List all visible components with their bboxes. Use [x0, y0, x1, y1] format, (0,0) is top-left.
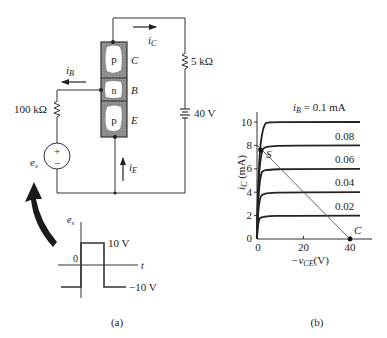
y-tick-10: 10 — [241, 116, 253, 128]
point-c-label: C — [354, 224, 362, 236]
collector-current-label: iC — [148, 34, 157, 48]
series-label-0.1: iB = 0.1 mA — [293, 101, 346, 115]
y-tick-6: 6 — [247, 162, 253, 174]
x-tick-40: 40 — [345, 241, 357, 253]
y-tick-2: 2 — [247, 209, 253, 221]
source-waveform — [58, 222, 138, 298]
base-resistor — [54, 101, 60, 117]
waveform-high-label: 10 V — [108, 237, 130, 249]
figure: 5 kΩ 40 V 100 kΩ + − es p n p C B E iC i… — [0, 0, 387, 338]
voltage-source: + − — [44, 143, 70, 169]
characteristic-chart: 10 8 6 4 2 0 0 20 40 S C iB = 0.1 mA 0.0… — [235, 101, 372, 268]
waveform-origin-label: 0 — [73, 253, 78, 264]
waveform-x-label: t — [141, 260, 144, 271]
collector-resistor-label: 5 kΩ — [191, 55, 213, 67]
curve-ib-0.02 — [257, 216, 360, 239]
point-s-marker — [258, 148, 263, 153]
caption-a: (a) — [111, 316, 124, 329]
x-tick-20: 20 — [298, 241, 310, 253]
collector-terminal-label: C — [131, 54, 139, 66]
collector-resistor — [182, 53, 188, 69]
base-current-label: iB — [66, 64, 74, 78]
base-terminal-label: B — [131, 84, 138, 96]
waveform-low-label: −10 V — [129, 281, 157, 293]
emitter-current-label: iE — [129, 161, 137, 175]
source-minus: − — [54, 157, 60, 169]
emitter-region-label: p — [111, 114, 117, 126]
chart-x-label: −vCE(V) — [291, 254, 329, 268]
x-tick-0: 0 — [255, 241, 261, 253]
battery-icon — [180, 109, 190, 118]
source-label: es — [30, 156, 38, 170]
chart-y-label: iC (mA) — [235, 155, 249, 190]
source-plus: + — [54, 145, 60, 157]
point-c-marker — [348, 237, 353, 242]
y-tick-8: 8 — [247, 139, 253, 151]
supply-voltage-label: 40 V — [194, 107, 216, 119]
point-s-label: S — [266, 148, 272, 160]
y-tick-0: 0 — [247, 232, 253, 244]
base-wire — [57, 90, 101, 101]
series-label-0.04: 0.04 — [335, 176, 355, 188]
series-label-0.08: 0.08 — [335, 130, 355, 142]
base-resistor-label: 100 kΩ — [14, 103, 47, 115]
emitter-terminal-label: E — [130, 114, 138, 126]
curved-arrow-icon — [25, 182, 57, 247]
base-region-label: n — [112, 85, 117, 96]
series-label-0.02: 0.02 — [335, 200, 354, 212]
series-label-0.06: 0.06 — [335, 153, 355, 165]
waveform-y-label: es — [67, 214, 74, 227]
caption-b: (b) — [311, 316, 324, 329]
collector-region-label: p — [111, 53, 117, 65]
